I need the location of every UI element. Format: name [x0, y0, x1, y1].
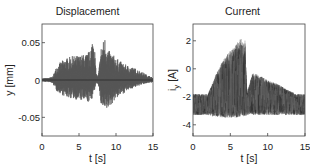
- charts-canvas: 0.050-0.05051015t [s]y [mm]20-2-4051015t…: [0, 0, 310, 167]
- y-tick-label: 2: [186, 35, 191, 46]
- data-traces: [193, 39, 305, 118]
- plot-frame: [193, 24, 305, 136]
- x-axis-label: t [s]: [241, 152, 258, 164]
- x-tick-label: 15: [148, 141, 159, 152]
- y-tick-label: 0.05: [22, 37, 41, 48]
- x-tick-label: 10: [262, 141, 273, 152]
- x-tick-label: 5: [76, 141, 81, 152]
- x-tick-label: 5: [228, 141, 233, 152]
- x-tick-label: 15: [300, 141, 310, 152]
- x-tick-label: 0: [39, 141, 44, 152]
- data-traces: [42, 40, 153, 108]
- y-axis-label: y [mm]: [3, 64, 15, 96]
- displacement-plot: 0.050-0.05051015t [s]y [mm]: [3, 24, 158, 164]
- y-tick-label: 0: [35, 75, 40, 86]
- y-tick-label: -2: [183, 91, 191, 102]
- x-axis-label: t [s]: [89, 152, 106, 164]
- x-tick-label: 10: [111, 141, 122, 152]
- y-axis-label: iy [A]: [166, 69, 181, 91]
- y-tick-label: -0.05: [18, 112, 40, 123]
- current-plot: 20-2-4051015t [s]iy [A]: [166, 24, 310, 164]
- y-tick-label: -4: [183, 119, 191, 130]
- x-tick-label: 0: [190, 141, 195, 152]
- y-tick-label: 0: [186, 63, 191, 74]
